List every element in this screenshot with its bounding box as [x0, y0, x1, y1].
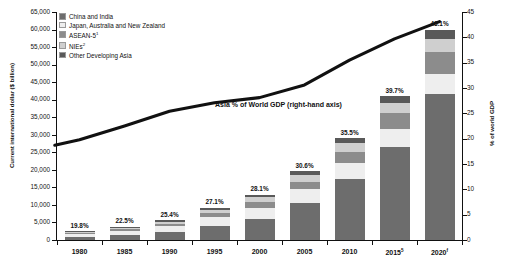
legend-item-label: Other Developing Asia — [69, 52, 132, 59]
chart-legend: China and IndiaJapan, Australia and New … — [59, 13, 165, 59]
legend-swatch-icon — [59, 52, 66, 59]
line-series-annotation: Asia % of World GDP (right-hand axis) — [215, 101, 342, 108]
legend-item-label: ASEAN-51 — [69, 30, 98, 39]
legend-item: NIEs2 — [59, 41, 165, 50]
legend-item: Japan, Australia and New Zealand — [59, 22, 165, 29]
chart-container: Current international dollar ($ billion)… — [0, 0, 505, 272]
legend-swatch-icon — [59, 22, 66, 29]
legend-item-label: China and India — [69, 13, 113, 20]
legend-item: ASEAN-51 — [59, 30, 165, 39]
legend-item-label: Japan, Australia and New Zealand — [69, 22, 165, 29]
legend-swatch-icon — [59, 42, 66, 49]
legend-item: Other Developing Asia — [59, 52, 165, 59]
legend-item: China and India — [59, 13, 165, 20]
legend-item-label: NIEs2 — [69, 41, 85, 50]
legend-swatch-icon — [59, 31, 66, 38]
legend-swatch-icon — [59, 13, 66, 20]
